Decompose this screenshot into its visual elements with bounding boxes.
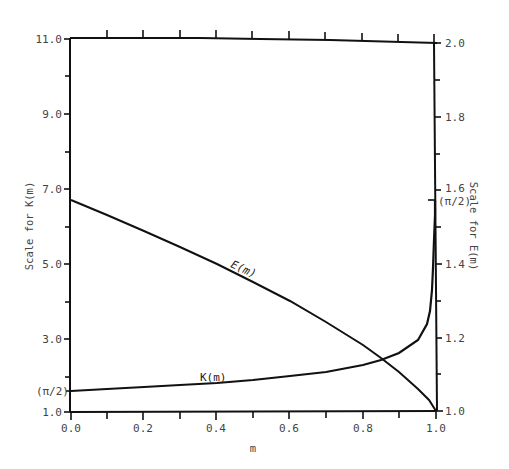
x-tick-1.0: 1.0	[426, 422, 446, 435]
curve-K	[71, 200, 435, 391]
y-left-tick-11: 11.0	[36, 33, 63, 46]
pi-half-right-annotation: (π/2)	[438, 195, 471, 208]
plot-frame	[70, 38, 437, 412]
y-right-tick-1.8: 1.8	[445, 111, 465, 124]
y-left-axis-title: Scale for K(m)	[23, 182, 35, 271]
x-tick-0.0: 0.0	[61, 422, 81, 435]
y-left-tick-3: 3.0	[42, 333, 62, 346]
y-left-tick-7: 7.0	[42, 183, 62, 196]
y-right-tick-1.0: 1.0	[445, 405, 465, 418]
left-tick-labels: 11.0 9.0 7.0 5.0 3.0 1.0 (π/2)	[36, 33, 70, 419]
y-left-tick-9: 9.0	[42, 108, 62, 121]
x-axis-title: m	[250, 442, 256, 454]
curve-K-label: K(m)	[200, 371, 227, 384]
y-right-tick-1.2: 1.2	[445, 332, 465, 345]
x-tick-0.4: 0.4	[206, 422, 226, 435]
y-right-tick-1.4: 1.4	[445, 258, 465, 271]
x-tick-0.2: 0.2	[133, 422, 153, 435]
top-border	[70, 38, 437, 43]
y-right-tick-1.6: 1.6	[445, 182, 465, 195]
x-tick-0.6: 0.6	[279, 422, 299, 435]
y-right-axis-title: Scale for E(m)	[468, 182, 480, 271]
y-left-tick-5: 5.0	[42, 258, 62, 271]
right-tick-labels: 2.0 1.8 1.6 1.4 1.2 1.0 (π/2)	[438, 37, 471, 418]
x-tick-labels: 0.0 0.2 0.4 0.6 0.8 1.0	[61, 422, 446, 435]
y-left-tick-1: 1.0	[42, 406, 62, 419]
x-tick-0.8: 0.8	[353, 422, 373, 435]
y-right-tick-2.0: 2.0	[445, 37, 465, 50]
pi-half-left-annotation: (π/2)	[36, 385, 69, 398]
elliptic-integrals-chart: 11.0 9.0 7.0 5.0 3.0 1.0 (π/2) 2.0 1.8 1…	[0, 0, 509, 469]
